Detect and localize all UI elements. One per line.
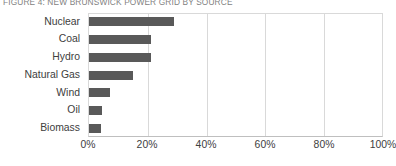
x-tick-label: 60% xyxy=(255,140,276,150)
x-tick-label: 20% xyxy=(137,140,158,150)
category-label: Oil xyxy=(0,102,84,120)
bar-coal xyxy=(89,35,151,44)
bar-row xyxy=(89,13,383,31)
x-axis-tick-labels: 0% 20% 40% 60% 80% 100% xyxy=(88,140,383,156)
category-label: Coal xyxy=(0,31,84,49)
x-tick-label: 100% xyxy=(370,140,396,150)
category-label: Wind xyxy=(0,84,84,102)
bar-row xyxy=(89,66,383,84)
chart-title: FIGURE 4: NEW BRUNSWICK POWER GRID BY SO… xyxy=(3,0,233,7)
bars-layer xyxy=(89,13,383,137)
x-tick-label: 0% xyxy=(80,140,95,150)
bar-biomass xyxy=(89,124,101,133)
y-axis-category-labels: Nuclear Coal Hydro Natural Gas Wind Oil … xyxy=(0,13,84,137)
bar-row xyxy=(89,84,383,102)
category-label: Natural Gas xyxy=(0,66,84,84)
x-tick-label: 40% xyxy=(196,140,217,150)
category-label: Nuclear xyxy=(0,13,84,31)
category-label: Hydro xyxy=(0,48,84,66)
bar-row xyxy=(89,102,383,120)
bar-wind xyxy=(89,88,110,97)
bar-row xyxy=(89,31,383,49)
category-label: Biomass xyxy=(0,119,84,137)
bar-oil xyxy=(89,106,102,115)
bar-nuclear xyxy=(89,17,174,26)
x-tick-label: 80% xyxy=(314,140,335,150)
bar-row xyxy=(89,119,383,137)
bar-hydro xyxy=(89,53,151,62)
bar-natural-gas xyxy=(89,71,133,80)
bar-row xyxy=(89,48,383,66)
